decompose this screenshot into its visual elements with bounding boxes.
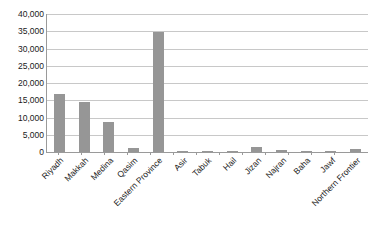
x-tick-mark [265,152,266,155]
bar-slot [294,14,319,152]
y-axis-tick-label: 0 [2,148,44,157]
x-tick-mark [242,152,243,155]
bar-slot [170,14,195,152]
bar-slot [245,14,270,152]
x-tick-mark [173,152,174,155]
y-axis-tick-label: 30,000 [2,44,44,53]
x-axis-labels: RiyadhMakkahMedinaQasimEastern ProvinceA… [47,156,368,236]
bar-slot [220,14,245,152]
x-tick-mark [58,152,59,155]
y-axis-tick-label: 35,000 [2,27,44,36]
x-tick-mark [150,152,151,155]
y-axis-tick-label: 40,000 [2,10,44,19]
x-tick-mark [196,152,197,155]
y-axis-tick-label: 10,000 [2,113,44,122]
y-axis-tick-label: 15,000 [2,96,44,105]
x-tick-mark [127,152,128,155]
y-axis-tick-label: 5,000 [2,131,44,140]
x-tick-mark [311,152,312,155]
x-axis-tick-label: Asir [172,156,189,173]
bar-slot [343,14,368,152]
x-tick-mark [104,152,105,155]
x-axis-tick-label: Jizan [243,156,264,177]
bar [153,32,164,152]
x-axis-tick-label: Tabuk [191,156,214,179]
x-tick-mark [288,152,289,155]
x-label-slot: Tabuk [195,156,220,236]
bar [103,122,114,152]
bar-slot [96,14,121,152]
bar-slot [195,14,220,152]
y-axis-tick-label: 20,000 [2,79,44,88]
bar-slot [47,14,72,152]
x-label-slot: Riyadh [47,156,72,236]
x-tick-mark [219,152,220,155]
x-label-slot: Northern Frontier [343,156,368,236]
bar-slot [121,14,146,152]
x-axis-tick-label: Baha [292,156,313,177]
x-axis-tick-label: Riyadh [41,156,66,181]
bar-slot [72,14,97,152]
bar [54,94,65,152]
x-label-slot: Eastern Province [146,156,171,236]
x-axis-tick-label: Hail [222,156,239,173]
x-axis-tick-label: Jawf [319,156,338,175]
x-tick-mark [334,152,335,155]
bar-slot [319,14,344,152]
bar [79,102,90,152]
x-label-slot: Hail [220,156,245,236]
x-label-slot: Najran [269,156,294,236]
x-label-slot: Asir [170,156,195,236]
y-axis-tick-label: 25,000 [2,62,44,71]
bar-series [47,14,368,152]
bar-slot [146,14,171,152]
x-label-slot: Jizan [245,156,270,236]
y-axis-labels: 40,00035,00030,00025,00020,00015,00010,0… [0,14,44,152]
bar-slot [269,14,294,152]
bar-chart: 40,00035,00030,00025,00020,00015,00010,0… [0,0,378,239]
x-label-slot: Makkah [72,156,97,236]
